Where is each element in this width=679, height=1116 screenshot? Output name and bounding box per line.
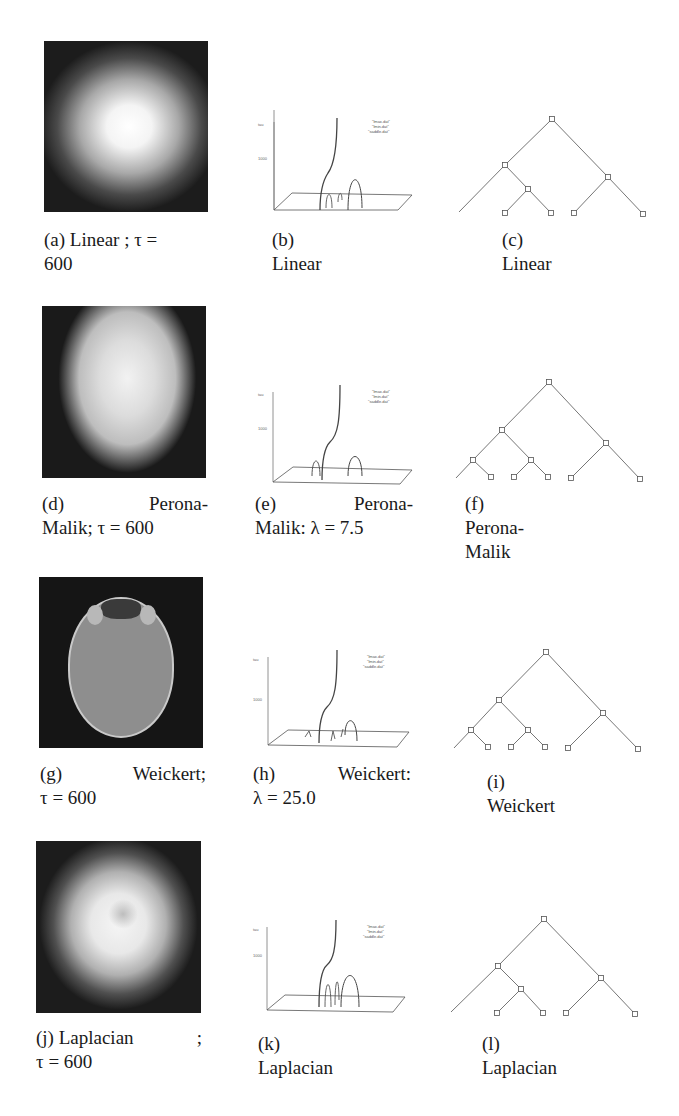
caption-a: (a) Linear ; τ = 600 [44,228,210,276]
scale-space-plot-weickert: tau 1000 "lmax.dat" "lmin.dat" "saddle.d… [245,645,425,755]
svg-text:tau: tau [253,927,259,932]
svg-text:1000: 1000 [258,156,268,161]
svg-text:"saddle.dat": "saddle.dat" [363,934,385,939]
image-linear [44,41,208,212]
merge-tree-perona-malik [450,370,660,490]
svg-text:"saddle.dat": "saddle.dat" [368,399,390,404]
caption-d: (d)Perona- Malik; τ = 600 [42,492,208,540]
svg-text:1000: 1000 [253,953,263,958]
merge-tree-laplacian [445,910,655,1025]
caption-c: (c) Linear [502,228,552,276]
image-weickert [39,577,203,748]
svg-text:"saddle.dat": "saddle.dat" [368,129,390,134]
svg-text:tau: tau [253,657,259,662]
svg-text:1000: 1000 [253,697,263,702]
caption-b: (b) Linear [272,228,322,276]
caption-h: (h)Weickert: λ = 25.0 [253,762,411,810]
caption-e: (e)Perona- Malik: λ = 7.5 [255,492,413,540]
image-perona-malik [42,306,206,478]
caption-i: (i) Weickert [487,770,555,818]
svg-text:"saddle.dat": "saddle.dat" [363,664,385,669]
merge-tree-linear [450,105,660,225]
scale-space-plot-linear: tau 1000 "lmax.dat" "lmin.dat" "saddle.d… [250,110,430,220]
caption-j: (j) Laplacian; τ = 600 [36,1026,202,1074]
image-laplacian [36,841,201,1013]
svg-text:1000: 1000 [258,426,268,431]
caption-k: (k) Laplacian [258,1032,333,1080]
merge-tree-weickert [450,640,660,760]
svg-text:tau: tau [258,122,264,127]
caption-l: (l) Laplacian [482,1032,557,1080]
svg-text:tau: tau [258,392,264,397]
scale-space-plot-laplacian: tau 1000 "lmax.dat" "lmin.dat" "saddle.d… [245,915,425,1025]
caption-g: (g)Weickert; τ = 600 [40,762,206,810]
scale-space-plot-perona-malik: tau 1000 "lmax.dat" "lmin.dat" "saddle.d… [250,380,430,490]
caption-f: (f) Perona-Malik [465,492,524,564]
